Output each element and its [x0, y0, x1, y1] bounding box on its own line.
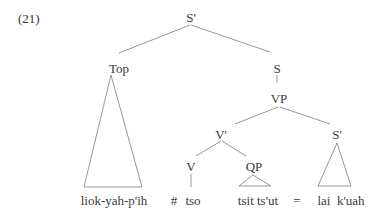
tree-branches: [0, 0, 379, 213]
triangle-sbar: [318, 143, 351, 186]
node-vp: VP: [271, 92, 288, 105]
leaf-sbar: lai k'uah: [317, 194, 364, 207]
branch-vbar-v: [196, 141, 221, 156]
node-v: V: [186, 160, 195, 173]
branch-root-top: [119, 25, 190, 53]
leaf-v: tso: [185, 194, 200, 207]
node-s: S: [273, 62, 280, 75]
leaf-topic: liok-yah-p'ih: [81, 194, 148, 207]
node-top: Top: [109, 62, 129, 75]
branch-vp-vbar: [235, 107, 278, 124]
branch-root-s: [191, 25, 270, 52]
branch-vp-sbar: [280, 107, 330, 124]
triangle-qp: [239, 175, 271, 186]
equals-symbol: =: [293, 194, 300, 207]
example-number: (21): [18, 12, 40, 25]
triangle-top: [84, 75, 142, 187]
branch-vbar-qp: [222, 141, 246, 156]
node-vbar: V': [215, 128, 227, 141]
node-root-sbar: S': [186, 11, 196, 24]
leaf-qp: tsit ts'ut: [238, 194, 278, 207]
node-sbar: S': [332, 128, 342, 141]
node-qp: QP: [246, 160, 263, 173]
boundary-symbol: #: [171, 194, 178, 207]
